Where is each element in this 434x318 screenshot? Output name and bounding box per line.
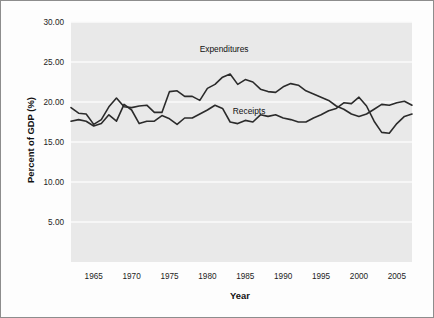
y-tick-label-5: 5.00: [48, 218, 64, 227]
x-tick-label-1970: 1970: [123, 272, 142, 281]
series-label-receipts: Receipts: [233, 106, 266, 116]
x-tick-label-1995: 1995: [312, 272, 331, 281]
x-axis-title: Year: [230, 290, 250, 301]
y-axis-title: Percent of GDP (%): [25, 97, 36, 183]
y-tick-label-25: 25.00: [44, 58, 65, 67]
x-tick-label-1980: 1980: [198, 272, 217, 281]
y-tick-label-30: 30.00: [44, 18, 65, 27]
chart-figure: 5.0010.0015.0020.0025.0030.00 1965197019…: [0, 0, 434, 318]
x-tick-label-2000: 2000: [350, 272, 369, 281]
x-tick-label-1990: 1990: [274, 272, 293, 281]
x-tick-label-1985: 1985: [236, 272, 255, 281]
x-tick-label-2005: 2005: [388, 272, 407, 281]
y-tick-label-10: 10.00: [44, 178, 65, 187]
y-axis-tick-labels: 5.0010.0015.0020.0025.0030.00: [44, 18, 65, 227]
line-chart: 5.0010.0015.0020.0025.0030.00 1965197019…: [0, 0, 434, 318]
y-tick-label-20: 20.00: [44, 98, 65, 107]
y-tick-label-15: 15.00: [44, 138, 65, 147]
x-axis-tick-labels: 196519701975198019851990199520002005: [85, 272, 407, 281]
series-label-expenditures: Expenditures: [200, 44, 249, 54]
x-tick-label-1975: 1975: [160, 272, 179, 281]
x-tick-label-1965: 1965: [85, 272, 104, 281]
